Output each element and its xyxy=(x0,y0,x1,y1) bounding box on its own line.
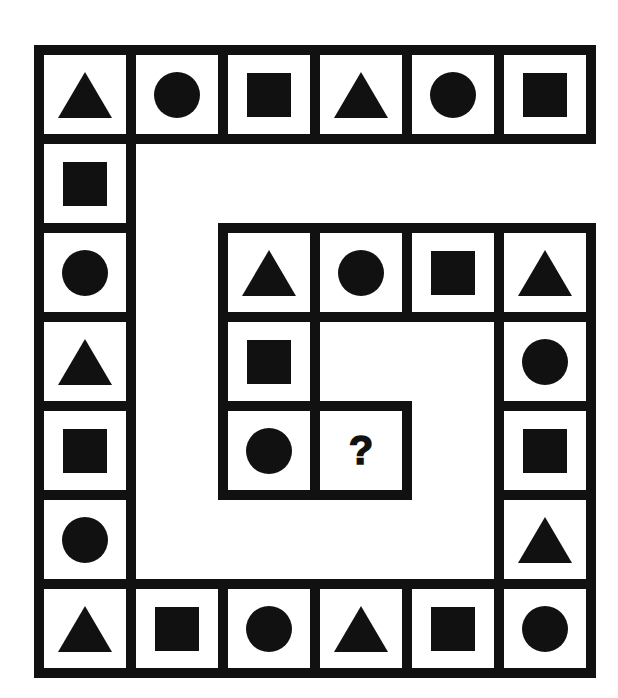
sequence-cell xyxy=(34,134,136,233)
circle-icon xyxy=(338,250,384,296)
square-icon xyxy=(247,73,291,117)
triangle-icon xyxy=(242,250,296,296)
square-icon xyxy=(155,607,199,651)
sequence-cell xyxy=(494,401,596,500)
sequence-cell xyxy=(402,45,504,144)
circle-icon xyxy=(246,428,292,474)
sequence-cell xyxy=(126,45,228,144)
sequence-cell xyxy=(310,579,412,678)
square-icon xyxy=(63,162,107,206)
triangle-icon xyxy=(58,339,112,385)
sequence-cell xyxy=(218,401,320,500)
sequence-cell xyxy=(34,490,136,589)
circle-icon xyxy=(246,606,292,652)
circle-icon xyxy=(522,606,568,652)
sequence-cell xyxy=(402,579,504,678)
question-mark: ? xyxy=(349,430,373,470)
sequence-cell xyxy=(494,223,596,322)
sequence-cell xyxy=(34,579,136,678)
sequence-cell xyxy=(310,223,412,322)
sequence-cell xyxy=(494,490,596,589)
missing-cell: ? xyxy=(310,401,412,500)
square-icon xyxy=(523,429,567,473)
sequence-cell xyxy=(34,312,136,411)
triangle-icon xyxy=(334,606,388,652)
triangle-icon xyxy=(58,606,112,652)
square-icon xyxy=(431,251,475,295)
sequence-cell xyxy=(310,45,412,144)
circle-icon xyxy=(430,72,476,118)
sequence-cell xyxy=(126,579,228,678)
sequence-cell xyxy=(218,579,320,678)
square-icon xyxy=(523,73,567,117)
circle-icon xyxy=(62,250,108,296)
square-icon xyxy=(63,429,107,473)
sequence-cell xyxy=(494,45,596,144)
sequence-cell xyxy=(218,45,320,144)
triangle-icon xyxy=(518,517,572,563)
square-icon xyxy=(247,340,291,384)
sequence-cell xyxy=(34,223,136,322)
spiral-shape-sequence-puzzle: ? xyxy=(0,0,618,698)
circle-icon xyxy=(62,517,108,563)
sequence-cell xyxy=(218,312,320,411)
circle-icon xyxy=(154,72,200,118)
square-icon xyxy=(431,607,475,651)
sequence-cell xyxy=(34,401,136,500)
triangle-icon xyxy=(334,72,388,118)
triangle-icon xyxy=(518,250,572,296)
sequence-cell xyxy=(34,45,136,144)
triangle-icon xyxy=(58,72,112,118)
sequence-cell xyxy=(494,579,596,678)
sequence-cell xyxy=(402,223,504,322)
circle-icon xyxy=(522,339,568,385)
sequence-cell xyxy=(494,312,596,411)
sequence-cell xyxy=(218,223,320,322)
